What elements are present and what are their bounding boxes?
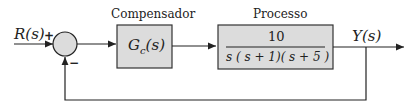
block-diagram: R(s) + − Compensador Gc(s) Processo 10 s… xyxy=(0,0,414,105)
fraction-bar xyxy=(0,0,414,105)
process-denominator: s ( s + 1)( s + 5 ) xyxy=(226,50,329,64)
output-label: Y(s) xyxy=(352,27,381,45)
